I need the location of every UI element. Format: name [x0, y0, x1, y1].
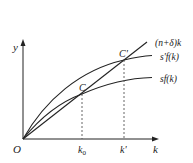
saving-old-label: sf(k): [160, 74, 177, 85]
k0-tick-label: k0: [78, 144, 86, 157]
saving-old-curve: [23, 78, 152, 140]
break-even-label: (n+δ)k: [155, 38, 182, 49]
kprime-tick-label: k': [120, 144, 127, 155]
point-c-label: C: [79, 82, 86, 93]
y-axis-label: y: [12, 41, 18, 53]
point-c-prime-label: C': [119, 48, 129, 59]
saving-new-curve: [23, 56, 152, 140]
y-axis-arrow: [21, 39, 26, 46]
solow-diagram: y k O (n+δ)k s'f(k) sf(k) C C' k0 k': [0, 0, 193, 163]
saving-new-label: s'f(k): [160, 52, 179, 63]
x-axis-arrow: [152, 137, 159, 142]
x-axis-label: k: [153, 143, 159, 155]
origin-label: O: [13, 143, 21, 155]
